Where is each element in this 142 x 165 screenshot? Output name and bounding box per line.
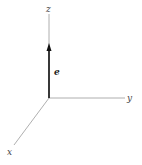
x-axis [14, 98, 49, 145]
y-axis-label: y [126, 93, 133, 103]
vector-arrowhead-icon [47, 43, 52, 51]
diagram-canvas: z y x e [0, 0, 142, 165]
x-axis-label: x [7, 147, 12, 157]
vector-label: e [54, 67, 60, 77]
axes-diagram: z y x e [0, 0, 142, 165]
z-axis-label: z [45, 4, 51, 14]
